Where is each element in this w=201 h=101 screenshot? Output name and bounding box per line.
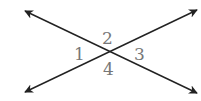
angle-label-2: 2 xyxy=(102,30,113,47)
angle-label-1: 1 xyxy=(74,46,85,63)
intersecting-lines-diagram xyxy=(0,0,201,101)
line-a xyxy=(25,11,197,93)
angle-label-4: 4 xyxy=(103,61,114,78)
angle-label-3: 3 xyxy=(134,46,145,63)
line-b xyxy=(25,10,197,92)
